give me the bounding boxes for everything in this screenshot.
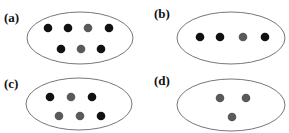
gray-dot	[228, 113, 237, 122]
black-dot	[46, 93, 55, 102]
gray-dot	[239, 33, 248, 42]
gray-dot	[67, 93, 76, 102]
set-ellipse	[26, 78, 132, 130]
panel-b: (b)	[154, 6, 285, 64]
gray-dot	[76, 112, 85, 121]
panel-label: (c)	[4, 76, 18, 91]
black-dot	[216, 33, 225, 42]
gray-dot	[77, 45, 86, 54]
panel-a: (a)	[4, 10, 133, 64]
black-dot	[196, 33, 205, 42]
black-dot	[44, 24, 53, 33]
panel-d: (d)	[154, 73, 285, 131]
black-dot	[105, 24, 114, 33]
gray-dot	[55, 112, 64, 121]
panel-label: (a)	[4, 10, 19, 25]
black-dot	[88, 93, 97, 102]
set-ellipse	[27, 12, 133, 64]
panel-label: (b)	[154, 6, 170, 21]
black-dot	[57, 45, 66, 54]
panel-c: (c)	[4, 76, 132, 130]
black-dot	[97, 45, 106, 54]
gray-dot	[242, 94, 251, 103]
black-dot	[97, 112, 106, 121]
cluster-diagram: (a)(b)(c)(d)	[0, 0, 289, 133]
black-dot	[261, 33, 270, 42]
panel-label: (d)	[154, 73, 170, 88]
set-ellipse	[177, 79, 285, 131]
gray-dot	[84, 24, 93, 33]
black-dot	[64, 24, 73, 33]
gray-dot	[216, 94, 225, 103]
